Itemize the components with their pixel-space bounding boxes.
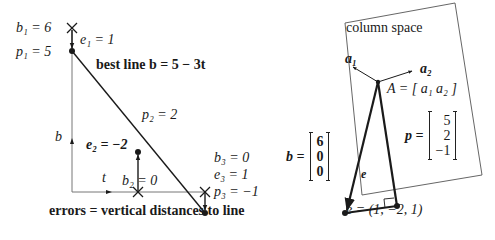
matrix-p-cell: 5: [443, 113, 450, 128]
matrix-p-cell: 2: [443, 128, 450, 143]
label-a1: a₁: [345, 52, 357, 66]
label-t-axis: t: [102, 171, 106, 185]
label-p2: p₂ = 2: [142, 108, 177, 122]
label-b-axis: b: [55, 130, 62, 144]
matrix-p-values: 5 2 −1: [429, 111, 456, 160]
matrix-b-cell: 0: [316, 149, 323, 164]
matrix-p-cell: −1: [435, 143, 450, 158]
matrix-b-cell: 0: [316, 164, 323, 179]
best-line-text: best line b = 5 − 3t: [96, 57, 205, 72]
vector-p: [378, 82, 397, 206]
matrix-p-label: p =: [405, 128, 423, 144]
label-a2: a₂: [420, 62, 432, 76]
label-e: e: [361, 168, 366, 180]
label-column-space: column space: [346, 21, 423, 35]
label-e1: e₁ = 1: [80, 33, 115, 47]
t-axis-arrow-icon: [106, 190, 112, 194]
matrix-b-cell: 6: [316, 134, 323, 149]
label-p1: p₁ = 5: [16, 45, 51, 59]
label-b3: b₃ = 0: [214, 151, 249, 165]
label-e-definition: e = (1, −2, 1): [346, 203, 422, 217]
label-b2: b₂ = 0: [122, 174, 157, 188]
label-A-definition: A = [ a₁ a₂ ]: [387, 82, 457, 96]
matrix-b-label: b =: [286, 149, 304, 165]
matrix-b: b = 6 0 0: [286, 132, 330, 181]
projection-point-p1-icon: [69, 48, 75, 54]
label-p3: p₃ = −1: [214, 185, 259, 199]
projection-point-p2-icon: [135, 149, 141, 155]
label-b1: b₁ = 6: [16, 21, 51, 35]
caption-errors: errors = vertical distances to line: [49, 203, 245, 219]
vector-a1: [353, 67, 378, 82]
matrix-p: p = 5 2 −1: [405, 111, 457, 160]
matrix-b-values: 6 0 0: [310, 132, 329, 181]
label-e2: e₂ = −2: [86, 138, 128, 152]
label-e3: e₃ = 1: [214, 168, 249, 182]
b-axis-arrow-icon: [70, 138, 74, 144]
vector-b: [347, 82, 378, 210]
label-best-line: best line b = 5 − 3t: [96, 58, 205, 72]
